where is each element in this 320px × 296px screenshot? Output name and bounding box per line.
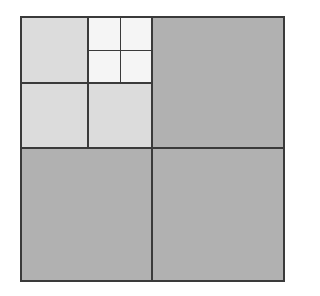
divider-mid-vertical	[151, 16, 153, 282]
cell-q-tr	[152, 17, 284, 148]
divider-mid-horizontal	[20, 147, 285, 149]
cell-q-tl-tr-bl	[88, 50, 120, 83]
divider-l2-horizontal	[20, 82, 153, 84]
cell-q-tl-br	[88, 83, 152, 148]
cell-q-br	[152, 148, 284, 281]
divider-outer-left	[20, 16, 22, 282]
cell-q-tl-bl	[21, 83, 88, 148]
cell-q-tl-tr-tl	[88, 17, 120, 50]
cell-q-tl-tr-br	[120, 50, 152, 83]
divider-l3-horizontal	[87, 50, 153, 51]
divider-outer-right	[283, 16, 285, 282]
cell-q-tl-tl	[21, 17, 88, 83]
cell-q-tl-tr-tr	[120, 17, 152, 50]
cell-q-bl	[21, 148, 152, 281]
